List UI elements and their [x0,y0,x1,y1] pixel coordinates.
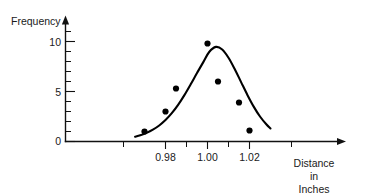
x-tick-label-100: 1.00 [197,151,218,163]
data-points-group [141,40,252,134]
x-axis-arrow-icon [337,138,346,145]
x-axis-title-line-1: Distance [294,157,335,169]
x-axis-group: 0.98 1.00 1.02 Distance in Inches [66,138,347,194]
data-point [141,128,147,134]
chart-canvas: 0 5 10 Frequency 0.98 1.00 1.02 Distance [0,0,366,194]
y-tick-label-10: 10 [49,36,61,48]
data-point [215,78,221,84]
x-tick-label-102: 1.02 [239,151,260,163]
data-point [246,127,252,133]
y-tick-label-5: 5 [55,86,61,98]
x-axis-title-line-2: in [310,170,318,182]
y-axis-title: Frequency [11,15,61,27]
y-axis-group: 0 5 10 Frequency [11,15,75,147]
x-axis-title-line-3: Inches [299,183,330,194]
fitted-normal-curve [135,47,270,137]
data-point [173,85,179,91]
x-tick-label-098: 0.98 [155,151,176,163]
frequency-distribution-chart: 0 5 10 Frequency 0.98 1.00 1.02 Distance [0,0,366,194]
y-tick-label-0: 0 [55,135,61,147]
data-point [236,99,242,105]
data-point [204,40,210,46]
data-point [162,108,168,114]
y-axis-arrow-icon [62,16,69,25]
